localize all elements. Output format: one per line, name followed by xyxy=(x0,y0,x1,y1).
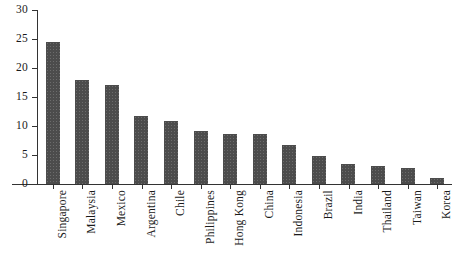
x-axis-tick xyxy=(437,184,438,189)
x-axis-tick xyxy=(408,184,409,189)
bar xyxy=(341,164,355,184)
y-axis-tick-label: 10 xyxy=(0,120,28,132)
bar xyxy=(312,156,326,184)
x-axis-tick xyxy=(289,184,290,189)
x-axis-tick xyxy=(82,184,83,189)
y-axis-tick xyxy=(32,39,37,40)
x-axis-tick xyxy=(171,184,172,189)
x-axis-tick-label: China xyxy=(264,190,276,218)
bar xyxy=(194,131,208,184)
x-axis-tick xyxy=(260,184,261,189)
x-axis-tick xyxy=(53,184,54,189)
bar-slot xyxy=(215,10,245,184)
bar-slot xyxy=(334,10,364,184)
bar xyxy=(371,166,385,184)
x-axis-label-hong-kong: Hong Kong xyxy=(234,190,246,246)
bar-slot xyxy=(275,10,305,184)
bar xyxy=(46,42,60,184)
x-axis-tick-label: Philippines xyxy=(205,190,217,244)
bar-slot xyxy=(304,10,334,184)
bar-slot xyxy=(38,10,68,184)
bar xyxy=(223,134,237,184)
x-axis-label-brazil: Brazil xyxy=(323,190,335,219)
bar-slot xyxy=(186,10,216,184)
x-axis-tick xyxy=(201,184,202,189)
x-axis-tick-label: Chile xyxy=(175,190,187,216)
x-axis-tick-label: Singapore xyxy=(57,190,69,238)
x-axis-ticks xyxy=(38,184,452,189)
bar xyxy=(253,134,267,184)
x-axis-label-mexico: Mexico xyxy=(116,190,128,226)
bar-slot xyxy=(363,10,393,184)
x-axis-label-argentina: Argentina xyxy=(146,190,158,238)
bar-slot xyxy=(68,10,98,184)
y-axis-tick-label: 20 xyxy=(0,62,28,74)
bar-slot xyxy=(127,10,157,184)
plot-area xyxy=(38,10,452,184)
bar-slot xyxy=(97,10,127,184)
x-axis-tick xyxy=(142,184,143,189)
x-axis-tick xyxy=(112,184,113,189)
y-axis-tick-label: 15 xyxy=(0,91,28,103)
bar xyxy=(105,85,119,184)
x-axis-tick-label: Brazil xyxy=(323,190,335,219)
x-axis-tick xyxy=(349,184,350,189)
bar-slot xyxy=(245,10,275,184)
bars-layer xyxy=(38,10,452,184)
x-axis-tick-label: Korea xyxy=(441,190,453,219)
y-axis-tick xyxy=(32,184,37,185)
x-axis-label-malaysia: Malaysia xyxy=(86,190,98,234)
x-axis-label-india: India xyxy=(353,190,365,215)
x-axis-tick-label: Hong Kong xyxy=(234,190,246,246)
y-axis-tick-label: 30 xyxy=(0,4,28,16)
y-axis-tick xyxy=(32,68,37,69)
bar-slot xyxy=(393,10,423,184)
x-axis-tick-label: Malaysia xyxy=(86,190,98,234)
x-axis-tick-label: Argentina xyxy=(146,190,158,238)
x-axis-label-singapore: Singapore xyxy=(57,190,69,238)
bar xyxy=(282,145,296,184)
x-axis-tick-label: Mexico xyxy=(116,190,128,226)
bar xyxy=(75,80,89,184)
x-axis-labels: SingaporeMalaysiaMexicoArgentinaChilePhi… xyxy=(38,190,452,258)
y-axis-tick xyxy=(32,97,37,98)
x-axis-label-philippines: Philippines xyxy=(205,190,217,244)
y-axis-tick xyxy=(32,155,37,156)
bar-slot xyxy=(156,10,186,184)
x-axis-tick-label: Thailand xyxy=(382,190,394,232)
y-axis-tick-label: 0 xyxy=(0,178,28,190)
x-axis-label-chile: Chile xyxy=(175,190,187,216)
y-axis-tick xyxy=(32,10,37,11)
y-axis-tick-label: 5 xyxy=(0,149,28,161)
x-axis-label-korea: Korea xyxy=(441,190,453,219)
x-axis-tick xyxy=(230,184,231,189)
bar xyxy=(401,168,415,184)
bar-slot xyxy=(422,10,452,184)
x-axis-label-china: China xyxy=(264,190,276,218)
bar xyxy=(164,121,178,184)
y-axis-tick-label: 25 xyxy=(0,33,28,45)
x-axis-tick-label: Indonesia xyxy=(293,190,305,237)
y-axis-tick xyxy=(32,126,37,127)
bar-chart: 051015202530 SingaporeMalaysiaMexicoArge… xyxy=(0,0,461,258)
x-axis-tick-label: Taiwan xyxy=(412,190,424,225)
x-axis-label-indonesia: Indonesia xyxy=(293,190,305,237)
x-axis-label-taiwan: Taiwan xyxy=(412,190,424,225)
x-axis-tick xyxy=(378,184,379,189)
x-axis-tick xyxy=(319,184,320,189)
x-axis-label-thailand: Thailand xyxy=(382,190,394,232)
x-axis-tick-label: India xyxy=(353,190,365,215)
bar xyxy=(134,116,148,184)
